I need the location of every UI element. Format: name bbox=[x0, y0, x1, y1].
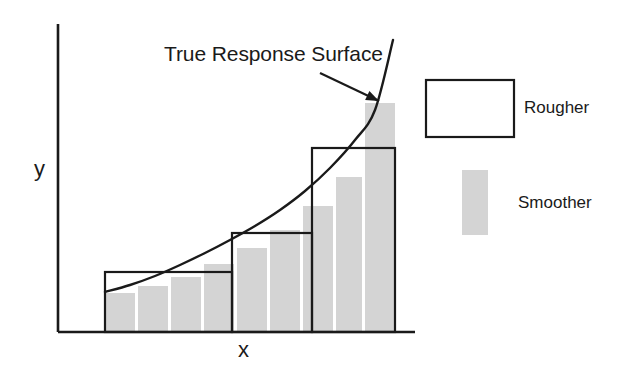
smoother-bar-group bbox=[105, 103, 395, 332]
smoother-bar bbox=[303, 206, 333, 332]
annotation-arrow bbox=[320, 73, 379, 101]
annotation-arrow-head bbox=[365, 91, 379, 101]
legend-item-label-smoother: Smoother bbox=[518, 194, 592, 211]
smoother-bar bbox=[336, 177, 362, 332]
smoother-bar bbox=[138, 286, 168, 332]
smoother-bar bbox=[365, 103, 395, 332]
smoother-bar bbox=[171, 277, 201, 332]
smoother-bar bbox=[237, 248, 267, 332]
legend-item-label-rougher: Rougher bbox=[524, 99, 589, 116]
smoother-bar bbox=[204, 264, 234, 332]
y-axis-label: y bbox=[34, 158, 45, 180]
annotation-label: True Response Surface bbox=[164, 43, 383, 64]
figure-root: True Response Surface y x Rougher Smooth… bbox=[0, 0, 617, 370]
smoother-bar bbox=[105, 293, 135, 332]
x-axis-label: x bbox=[238, 339, 249, 361]
legend-rougher-swatch bbox=[426, 80, 514, 137]
smoother-bar bbox=[270, 230, 300, 332]
legend-smoother-swatch bbox=[462, 170, 488, 235]
